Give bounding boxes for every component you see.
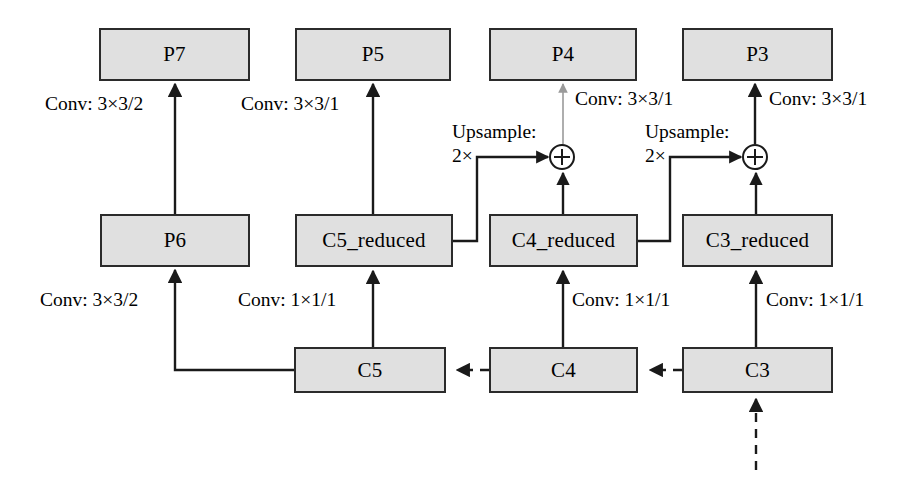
fpn-diagram: P7 P5 P4 P3 P6 C5_reduced C4_reduced C3_… bbox=[0, 0, 919, 499]
label-c4-to-c4reduced: Conv: 1×1/1 bbox=[572, 289, 670, 311]
add-operator-p4-icon bbox=[549, 144, 575, 170]
label-c5-to-c5reduced: Conv: 1×1/1 bbox=[238, 289, 336, 311]
label-upsample-c4reduced-line1: Upsample: bbox=[645, 120, 729, 144]
node-c3[interactable]: C3 bbox=[682, 347, 833, 393]
label-add4-to-p4: Conv: 3×3/1 bbox=[575, 88, 673, 110]
label-c5-to-p6: Conv: 3×3/2 bbox=[40, 289, 138, 311]
label-add3-to-p3: Conv: 3×3/1 bbox=[769, 88, 867, 110]
label-upsample-c4reduced: Upsample: 2× bbox=[645, 120, 729, 168]
node-c5-reduced[interactable]: C5_reduced bbox=[295, 214, 453, 267]
label-upsample-c4reduced-line2: 2× bbox=[645, 144, 729, 168]
node-p7[interactable]: P7 bbox=[99, 28, 250, 81]
node-p5[interactable]: P5 bbox=[295, 28, 451, 81]
label-c3-to-c3reduced: Conv: 1×1/1 bbox=[766, 289, 864, 311]
node-c4[interactable]: C4 bbox=[489, 347, 638, 393]
label-c5reduced-to-p5: Conv: 3×3/1 bbox=[241, 93, 339, 115]
node-c3-reduced[interactable]: C3_reduced bbox=[682, 214, 833, 267]
label-upsample-c5reduced-line2: 2× bbox=[452, 144, 536, 168]
node-p6[interactable]: P6 bbox=[100, 214, 250, 267]
node-p3[interactable]: P3 bbox=[682, 28, 833, 81]
add-operator-p3-icon bbox=[742, 144, 768, 170]
label-upsample-c5reduced-line1: Upsample: bbox=[452, 120, 536, 144]
node-c4-reduced[interactable]: C4_reduced bbox=[489, 214, 638, 267]
label-p6-to-p7: Conv: 3×3/2 bbox=[45, 93, 143, 115]
node-p4[interactable]: P4 bbox=[489, 28, 637, 81]
label-upsample-c5reduced: Upsample: 2× bbox=[452, 120, 536, 168]
node-c5[interactable]: C5 bbox=[294, 347, 446, 393]
